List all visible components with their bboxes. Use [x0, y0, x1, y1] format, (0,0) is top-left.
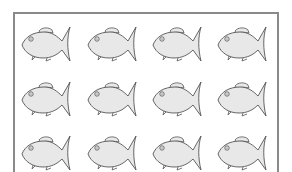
fish-icon — [215, 132, 269, 172]
fish-icon — [150, 78, 204, 118]
fish-icon — [215, 78, 269, 118]
fish-icon — [150, 132, 204, 172]
fish-icon — [85, 132, 139, 172]
fish-icon — [150, 23, 204, 63]
fish-icon — [19, 78, 73, 118]
fish-icon — [19, 23, 73, 63]
fish-icon — [19, 132, 73, 172]
fish-icon — [215, 23, 269, 63]
fish-icon — [85, 23, 139, 63]
fish-icon — [85, 78, 139, 118]
